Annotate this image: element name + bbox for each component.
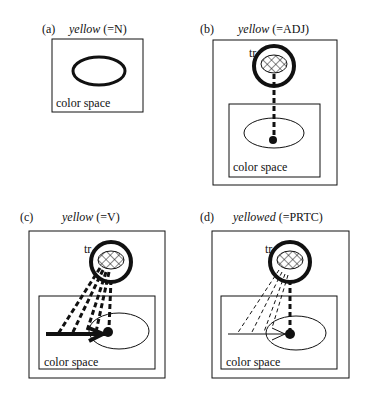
landmark-dot xyxy=(269,136,277,144)
panel-b-title: yellow (=ADJ) xyxy=(237,22,309,36)
trajector-label: tr xyxy=(249,46,256,60)
diagram-canvas: (a) yellow (=N) color space (b) yellow (… xyxy=(0,0,368,398)
panel-a-label: (a) xyxy=(42,22,55,36)
yellow-region-ellipse xyxy=(266,316,326,350)
panel-a-title: yellow (=N) xyxy=(68,22,127,36)
panel-b: (b) yellow (=ADJ) tr color space xyxy=(200,22,337,185)
landmark-dot xyxy=(103,327,113,337)
panel-d-title: yellowed (=PRTC) xyxy=(232,210,323,224)
panel-a: (a) yellow (=N) color space xyxy=(42,22,143,112)
trajector-label: tr xyxy=(84,242,91,256)
panel-b-label: (b) xyxy=(200,22,214,36)
color-space-label: color space xyxy=(233,160,287,174)
panel-d: (d) yellowed (=PRTC) tr color space xyxy=(200,210,349,378)
panel-c-title: yellow (=V) xyxy=(61,210,120,224)
panel-c-label: (c) xyxy=(20,210,33,224)
trajector-hatched-ellipse xyxy=(277,251,303,269)
panel-c: (c) yellow (=V) tr color space xyxy=(20,210,165,378)
panel-d-label: (d) xyxy=(200,210,214,224)
trajector-hatched-ellipse xyxy=(261,55,287,73)
color-space-label: color space xyxy=(56,96,110,110)
path-dashed-lines xyxy=(58,268,111,334)
trajector-hatched-ellipse xyxy=(98,251,124,269)
yellow-region-ellipse xyxy=(73,57,125,85)
color-space-label: color space xyxy=(226,355,280,369)
landmark-dot xyxy=(285,329,295,339)
trajector-label: tr xyxy=(265,242,272,256)
color-space-label: color space xyxy=(44,355,98,369)
